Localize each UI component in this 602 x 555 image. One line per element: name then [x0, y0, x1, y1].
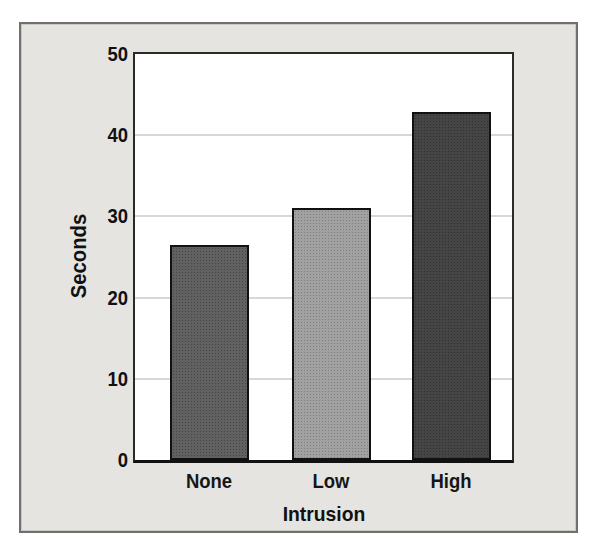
- y-tick-label-0: 0: [36, 448, 128, 472]
- bar-high: [412, 112, 491, 460]
- bar-none: [170, 245, 249, 460]
- bar-low: [292, 208, 371, 460]
- y-tick-label-50: 50: [36, 42, 128, 66]
- y-tick-label-20: 20: [36, 286, 128, 310]
- plot-area: [133, 52, 514, 463]
- page: Seconds 01020304050 NoneLowHigh Intrusio…: [0, 0, 602, 555]
- x-category-label-low: Low: [313, 469, 350, 493]
- x-axis-title: Intrusion: [283, 502, 366, 526]
- y-tick-label-10: 10: [36, 367, 128, 391]
- chart-card: Seconds 01020304050 NoneLowHigh Intrusio…: [19, 22, 578, 533]
- x-category-label-high: High: [430, 469, 471, 493]
- x-category-label-none: None: [186, 469, 232, 493]
- y-tick-label-40: 40: [36, 123, 128, 147]
- y-tick-label-30: 30: [36, 204, 128, 228]
